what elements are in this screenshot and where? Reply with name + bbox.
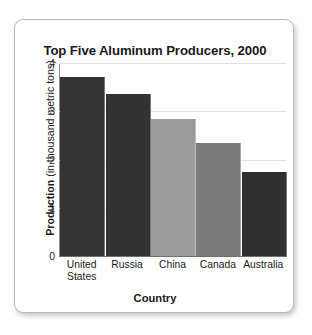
y-axis-tick-label: 0 xyxy=(41,251,55,262)
bar-russia xyxy=(106,94,151,256)
x-tick-label-russia: Russia xyxy=(104,259,149,271)
bar-fill xyxy=(196,143,241,256)
y-axis-tick-label: 2 xyxy=(41,155,55,166)
bar-canada xyxy=(196,143,241,256)
x-axis-tick-labels: UnitedStatesRussiaChinaCanadaAustralia xyxy=(59,259,287,293)
gridline xyxy=(59,63,286,64)
y-axis-ticks: 01234 xyxy=(39,63,55,256)
bar-fill xyxy=(106,94,151,256)
x-tick-label-line: China xyxy=(150,259,195,271)
x-tick-label-line: United xyxy=(59,259,104,271)
x-tick-label-canada: Canada xyxy=(195,259,240,271)
bar-fill xyxy=(60,77,105,256)
x-tick-label-united-states: UnitedStates xyxy=(59,259,104,282)
y-axis-tick-label: 1 xyxy=(41,203,55,214)
chart-frame: Top Five Aluminum Producers, 2000 Produc… xyxy=(14,19,294,313)
x-axis-line xyxy=(59,256,287,257)
bar-fill xyxy=(151,119,196,257)
bar-australia xyxy=(242,172,287,256)
x-tick-label-line: Australia xyxy=(241,259,286,271)
x-tick-label-china: China xyxy=(150,259,195,271)
x-axis-title: Country xyxy=(15,292,295,304)
y-axis-tick-label: 3 xyxy=(41,106,55,117)
y-axis-tick-label: 4 xyxy=(41,58,55,69)
chart-title: Top Five Aluminum Producers, 2000 xyxy=(15,43,295,58)
x-tick-label-australia: Australia xyxy=(241,259,286,271)
bar-fill xyxy=(242,172,287,256)
plot-area xyxy=(59,63,286,256)
x-tick-label-line: Canada xyxy=(195,259,240,271)
x-tick-label-line: States xyxy=(59,271,104,283)
x-tick-label-line: Russia xyxy=(104,259,149,271)
bar-united-states xyxy=(60,77,105,256)
bar-china xyxy=(151,119,196,257)
chart-figure: Top Five Aluminum Producers, 2000 Produc… xyxy=(0,0,312,335)
